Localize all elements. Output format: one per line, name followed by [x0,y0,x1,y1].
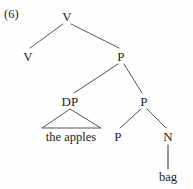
tree-node-v-root: V [62,10,72,23]
branch-p-upper-to-p-mid [124,64,142,93]
tree-terminal-the-apples: the apples [46,131,96,144]
branch-v-root-to-p-upper [71,24,119,48]
triangle-group [42,109,101,128]
dp-triangle [42,109,101,128]
branch-p-upper-to-dp [74,64,118,93]
tree-node-n: N [163,130,173,143]
tree-node-p-upper: P [117,50,124,63]
tree-branch-lines [0,0,193,189]
branch-p-mid-to-p-lower [120,109,141,128]
tree-terminal-bag: bag [159,171,177,184]
branch-p-mid-to-n [147,109,166,128]
tree-node-p-mid: P [140,95,147,108]
branch-group [30,24,166,128]
tree-node-dp: DP [61,95,78,108]
syntax-tree-figure: (6) VVPDPPPN the applesbag [0,0,193,189]
branch-v-root-to-v-left [30,24,63,48]
tree-node-v-left: V [23,50,33,63]
tree-node-p-lower: P [114,130,121,143]
